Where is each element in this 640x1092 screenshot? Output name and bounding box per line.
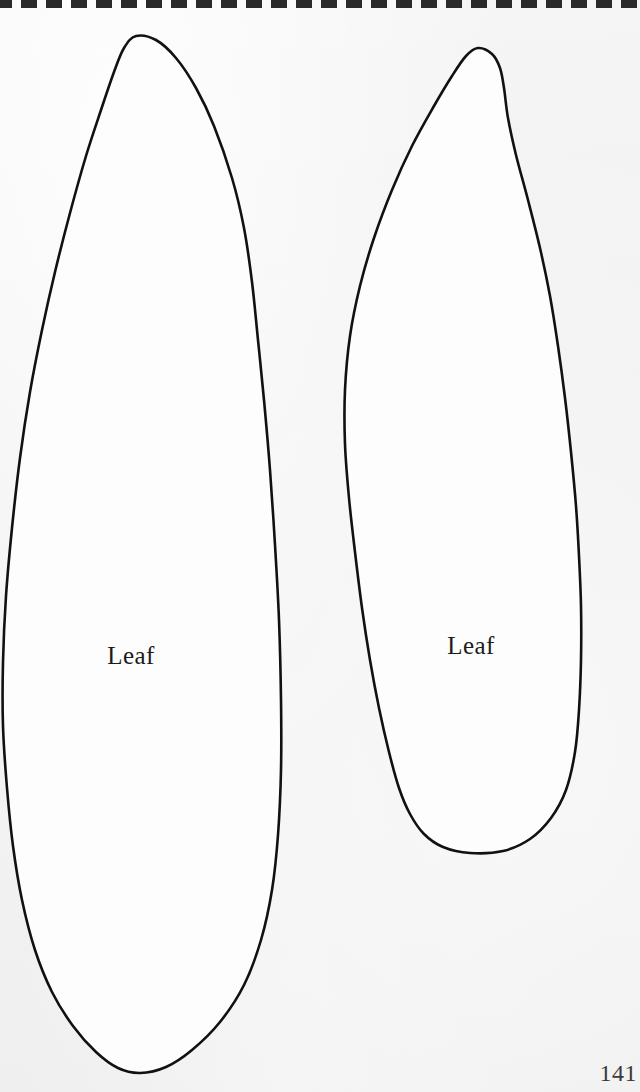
leaf-outline-right — [344, 48, 581, 853]
leaf-label-right: Leaf — [447, 632, 494, 660]
page-number: 141 — [600, 1060, 638, 1087]
pattern-page: Leaf Leaf 141 — [0, 0, 640, 1092]
leaf-label-left: Leaf — [107, 642, 154, 670]
leaf-outline-left — [3, 36, 282, 1073]
leaf-templates-drawing — [0, 0, 640, 1092]
